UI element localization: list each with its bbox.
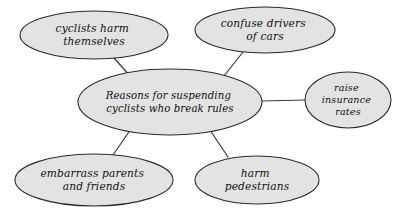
node-embarrass-parents-and-friends[interactable]: embarrass parents and friends — [15, 154, 173, 206]
diagram-canvas: cyclists harm themselves confuse drivers… — [0, 0, 405, 216]
connector-central-to-harm-pedestrians — [210, 130, 228, 157]
connector-central-to-confuse-drivers-of-cars — [224, 52, 243, 76]
node-raise-insurance-rates[interactable]: raise insurance rates — [305, 72, 391, 128]
connector-central-to-embarrass-parents-and-friends — [113, 129, 131, 155]
node-central-reasons-for-suspending-cyclists[interactable]: Reasons for suspending cyclists who brea… — [78, 69, 262, 135]
node-label: cyclists harm themselves — [56, 22, 133, 47]
connector-central-to-raise-insurance-rates — [262, 100, 306, 101]
node-shape — [78, 69, 262, 135]
node-confuse-drivers-of-cars[interactable]: confuse drivers of cars — [195, 7, 335, 53]
mind-map-diagram: cyclists harm themselves confuse drivers… — [0, 0, 405, 216]
node-cyclists-harm-themselves[interactable]: cyclists harm themselves — [20, 11, 168, 59]
node-harm-pedestrians[interactable]: harm pedestrians — [195, 156, 319, 204]
